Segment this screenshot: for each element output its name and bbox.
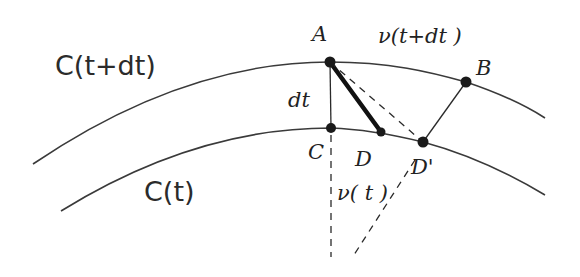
point-a: [325, 57, 336, 68]
label-point-b: B: [475, 56, 491, 80]
point-b: [461, 77, 472, 88]
segment-ad: [330, 62, 381, 132]
label-v-t-plus-dt: ν(t+dt ): [378, 24, 462, 48]
label-point-d: D: [354, 147, 372, 171]
segment-ad-prime: [330, 62, 423, 142]
label-point-a: A: [310, 22, 327, 46]
label-c-t: C(t): [144, 176, 195, 207]
velocity-line-v-t: [352, 160, 415, 258]
label-point-d-prime: D': [410, 155, 434, 179]
curve-c-t: [61, 128, 545, 211]
label-point-c: C: [308, 140, 324, 164]
point-d: [377, 128, 386, 137]
label-v-t: ν( t ): [337, 181, 388, 205]
segment-ac: [330, 62, 331, 128]
point-d-prime: [418, 137, 429, 148]
label-dt: dt: [288, 88, 310, 112]
segment-bd-prime: [423, 82, 466, 142]
wavefront-diagram: C(t+dt) C(t) A B C D D' dt ν(t+dt ) ν( t…: [0, 0, 580, 277]
label-c-t-plus-dt: C(t+dt): [55, 50, 156, 81]
point-c: [326, 123, 336, 133]
